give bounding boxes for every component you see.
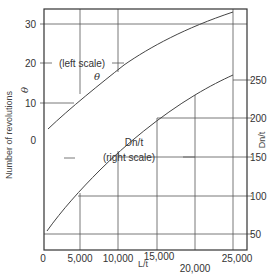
y-right-tick-150: 150	[250, 152, 267, 163]
y-left-title: Number of revolutions	[4, 90, 14, 179]
nomogram-chart: 30 20 10 0 θ Number of revolutions 250 2…	[0, 0, 274, 280]
dn-curve-label: Dn/t	[125, 137, 144, 148]
y-right-tick-50: 50	[250, 229, 262, 240]
x-tick-25000: 25,000	[222, 253, 253, 264]
x-axis-title: L/t	[138, 259, 149, 269]
y-left-tick-0: 0	[30, 135, 36, 146]
theta-curve	[48, 12, 233, 129]
x-tick-10000: 10,000	[103, 253, 134, 264]
x-tick-15000: 15,000	[144, 251, 175, 262]
y-right-tick-100: 100	[250, 191, 267, 202]
x-tick-0: 0	[40, 253, 46, 264]
x-tick-5000: 5,000	[67, 253, 92, 264]
theta-curve-label: θ	[94, 71, 100, 82]
y-right-tick-250: 250	[250, 75, 267, 86]
y-left-symbol: θ	[19, 87, 30, 93]
theta-scale-annotation: (left scale)	[59, 58, 105, 69]
y-left-tick-30: 30	[25, 19, 37, 30]
x-tick-20000: 20,000	[180, 263, 211, 274]
y-right-title: Dn/t	[257, 131, 267, 148]
y-left-tick-10: 10	[25, 98, 37, 109]
y-left-tick-20: 20	[25, 58, 37, 69]
y-right-tick-200: 200	[250, 113, 267, 124]
dn-scale-annotation: (right scale)	[103, 152, 155, 163]
